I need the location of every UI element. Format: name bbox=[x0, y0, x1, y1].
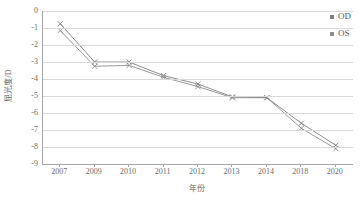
gridline bbox=[43, 130, 353, 131]
x-axis-tick-mark bbox=[59, 164, 60, 167]
y-axis-tick-label: -5 bbox=[31, 92, 38, 100]
x-axis-tick-label: 2011 bbox=[155, 167, 171, 177]
x-axis-tick-label: 2007 bbox=[51, 167, 67, 177]
gridline bbox=[43, 113, 353, 114]
x-axis-tick-mark bbox=[335, 164, 336, 167]
x-axis-tick-mark bbox=[266, 164, 267, 167]
legend-item-od[interactable]: OD bbox=[296, 8, 356, 25]
legend-item-os[interactable]: OS bbox=[296, 25, 356, 42]
refraction-trend-chart: 屈光度/D 0-1-2-3-4-5-6-7-8-9 20072009201020… bbox=[0, 0, 360, 203]
y-axis-tick-label: -3 bbox=[31, 58, 38, 66]
gridline bbox=[43, 62, 353, 63]
x-axis-tick-mark bbox=[300, 164, 301, 167]
x-axis-tick-mark bbox=[197, 164, 198, 167]
x-axis-tick-label: 2014 bbox=[258, 167, 274, 177]
data-point-marker bbox=[299, 121, 304, 126]
y-axis-tick-labels: 0-1-2-3-4-5-6-7-8-9 bbox=[14, 11, 40, 164]
gridline bbox=[43, 45, 353, 46]
x-axis-tick-label: 2009 bbox=[86, 167, 102, 177]
x-axis-tick-label: 2010 bbox=[120, 167, 136, 177]
series-os bbox=[58, 28, 339, 151]
y-axis-tick-label: -1 bbox=[31, 24, 38, 32]
x-axis-title: 年份 bbox=[42, 182, 352, 193]
x-axis-tick-label: 2013 bbox=[223, 167, 239, 177]
y-axis-tick-label: -9 bbox=[31, 160, 38, 168]
gridline bbox=[43, 79, 353, 80]
y-axis-tick-label: -2 bbox=[31, 41, 38, 49]
y-axis-tick-label: -8 bbox=[31, 143, 38, 151]
legend-label: OS bbox=[338, 29, 356, 38]
gridline bbox=[43, 147, 353, 148]
gridline bbox=[43, 96, 353, 97]
y-axis-tick-label: 0 bbox=[34, 7, 38, 15]
x-axis-tick-mark bbox=[94, 164, 95, 167]
x-axis-tick-mark bbox=[128, 164, 129, 167]
x-axis-tick-label: 2018 bbox=[292, 167, 308, 177]
chart-legend: ODOS bbox=[296, 8, 356, 42]
x-axis-tick-labels: 200720092010201120122013201420182020 bbox=[42, 167, 352, 181]
legend-swatch-icon bbox=[330, 15, 334, 19]
x-axis-tick-mark bbox=[231, 164, 232, 167]
x-axis-tick-mark bbox=[163, 164, 164, 167]
legend-swatch-icon bbox=[330, 32, 334, 36]
y-axis-tick-label: -6 bbox=[31, 109, 38, 117]
data-point-marker bbox=[58, 21, 63, 26]
y-axis-tick-label: -4 bbox=[31, 75, 38, 83]
legend-label: OD bbox=[338, 12, 356, 21]
x-axis-tick-label: 2020 bbox=[327, 167, 343, 177]
data-point-marker bbox=[195, 84, 200, 89]
x-axis-tick-label: 2012 bbox=[189, 167, 205, 177]
y-axis-tick-label: -7 bbox=[31, 126, 38, 134]
y-axis-title: 屈光度/D bbox=[0, 0, 14, 170]
y-axis-title-label: 屈光度/D bbox=[2, 69, 13, 101]
